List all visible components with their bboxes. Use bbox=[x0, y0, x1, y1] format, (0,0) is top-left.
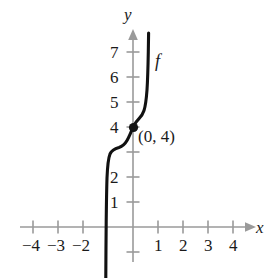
y-tick-label-4: 4 bbox=[110, 119, 119, 136]
x-axis-group bbox=[20, 221, 256, 234]
y-axis-label: y bbox=[124, 6, 132, 23]
x-axis-label: x bbox=[256, 219, 264, 236]
x-tick-label--4: −4 bbox=[22, 237, 40, 254]
y-tick-label-2: 2 bbox=[110, 169, 119, 186]
point-annotation-0-4: (0, 4) bbox=[138, 128, 175, 145]
graph-figure: y x 7 6 5 4 2 1 −4 −3 −2 1 2 3 4 f (0, 4… bbox=[0, 0, 269, 278]
x-tick-label--3: −3 bbox=[47, 237, 65, 254]
x-axis-arrowhead bbox=[245, 222, 256, 232]
y-tick-label-1: 1 bbox=[110, 194, 119, 211]
x-tick-label-2: 2 bbox=[179, 237, 188, 254]
curve-label-f: f bbox=[155, 52, 160, 70]
y-axis-arrowhead bbox=[128, 29, 138, 40]
y-tick-label-7: 7 bbox=[110, 44, 119, 61]
x-tick-label--2: −2 bbox=[72, 237, 90, 254]
x-tick-label-3: 3 bbox=[204, 237, 213, 254]
x-tick-label-1: 1 bbox=[154, 237, 163, 254]
y-tick-label-6: 6 bbox=[110, 69, 119, 86]
y-tick-label-5: 5 bbox=[110, 94, 119, 111]
x-tick-label-4: 4 bbox=[229, 237, 238, 254]
point-marker-0-4 bbox=[129, 123, 138, 132]
